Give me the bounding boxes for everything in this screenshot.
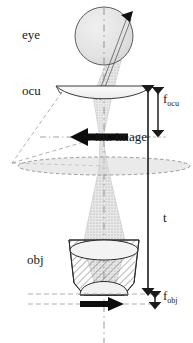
label-ocular: ocu	[22, 84, 41, 97]
label-eye: eye	[22, 28, 40, 41]
f-objective-subscript: obj	[167, 296, 177, 305]
optical-diagram: eye ocu obj int. image focu t fobj	[0, 0, 193, 343]
field-plane-ellipse	[18, 157, 190, 175]
label-f-ocular: focu	[163, 92, 179, 105]
ocular-lens	[56, 86, 152, 99]
f-ocular-subscript: ocu	[167, 99, 179, 108]
label-tube-length: t	[163, 211, 167, 224]
label-intermediate-image: int. image	[95, 130, 147, 143]
object-arrow	[80, 297, 124, 311]
objective-upper-lens	[70, 240, 138, 260]
construction-lines	[12, 92, 104, 166]
label-f-objective: fobj	[163, 289, 178, 302]
label-objective: obj	[27, 253, 44, 266]
